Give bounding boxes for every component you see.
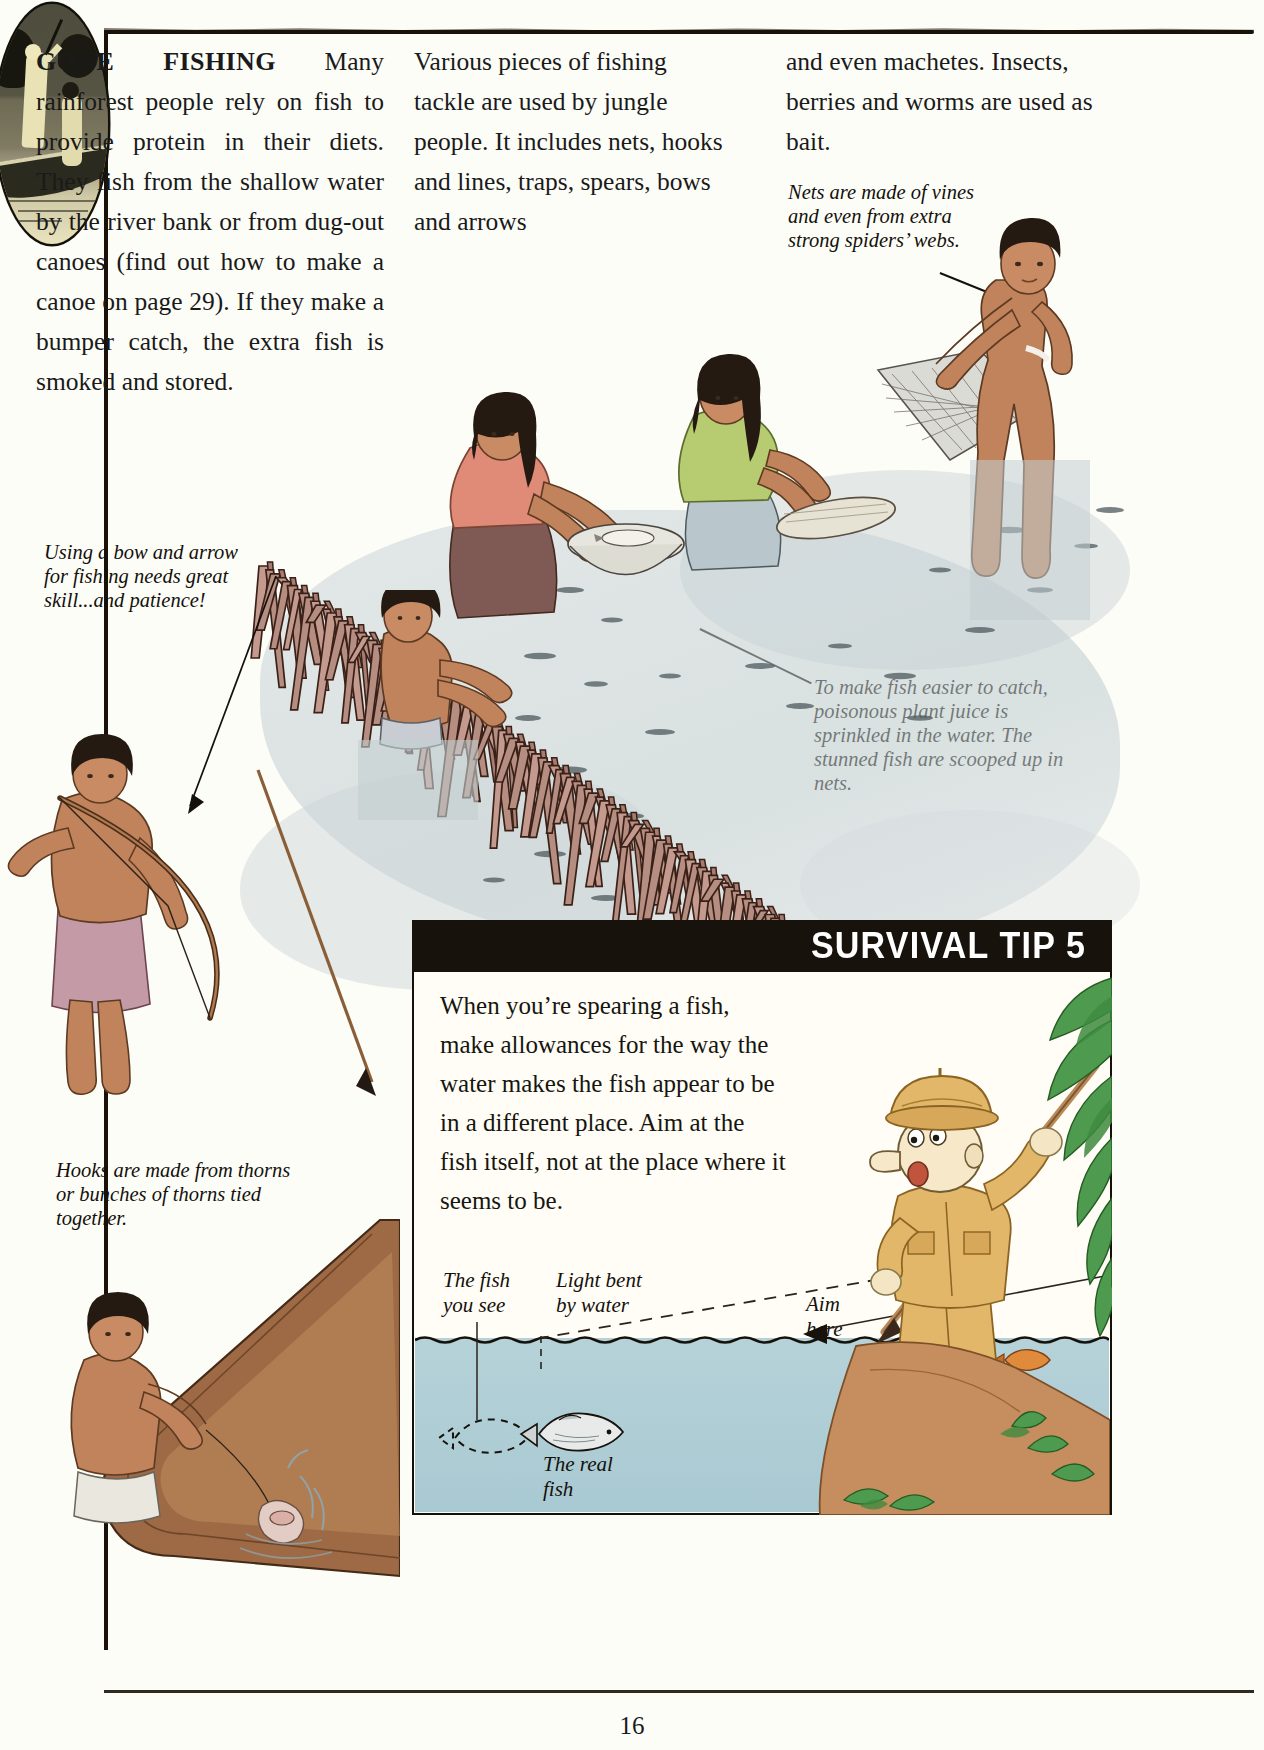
column-3-body: and even machetes. Insects, berries and … (786, 42, 1126, 162)
leader-bow-caption (180, 560, 340, 820)
survival-tip-body: When you’re spearing a fish, make allowa… (440, 986, 786, 1220)
foliage-illustration (1012, 968, 1112, 1348)
woman-green-shirt-illustration (660, 350, 960, 610)
riverbank-illustration (760, 1330, 1110, 1515)
top-rule (104, 30, 1254, 34)
page-number: 16 (0, 1712, 1264, 1740)
column-3: and even machetes. Insects, berries and … (786, 42, 1126, 162)
man-in-canoe-illustration (0, 1200, 400, 1600)
survival-tip-banner: SURVIVAL TIP 5 (412, 920, 1112, 972)
column-1: GONE FISHING Many rainforest people rely… (36, 42, 384, 402)
column-1-body: Many rainforest people rely on fish to p… (36, 47, 384, 396)
survival-tip-banner-label: SURVIVAL TIP 5 (811, 925, 1086, 967)
column-2-body: Various pieces of fishing tackle are use… (414, 42, 734, 242)
bottom-rule (104, 1690, 1254, 1693)
book-page: GONE FISHING Many rainforest people rely… (0, 0, 1264, 1750)
page-title: GONE FISHING (36, 47, 276, 76)
column-2: Various pieces of fishing tackle are use… (414, 42, 734, 242)
